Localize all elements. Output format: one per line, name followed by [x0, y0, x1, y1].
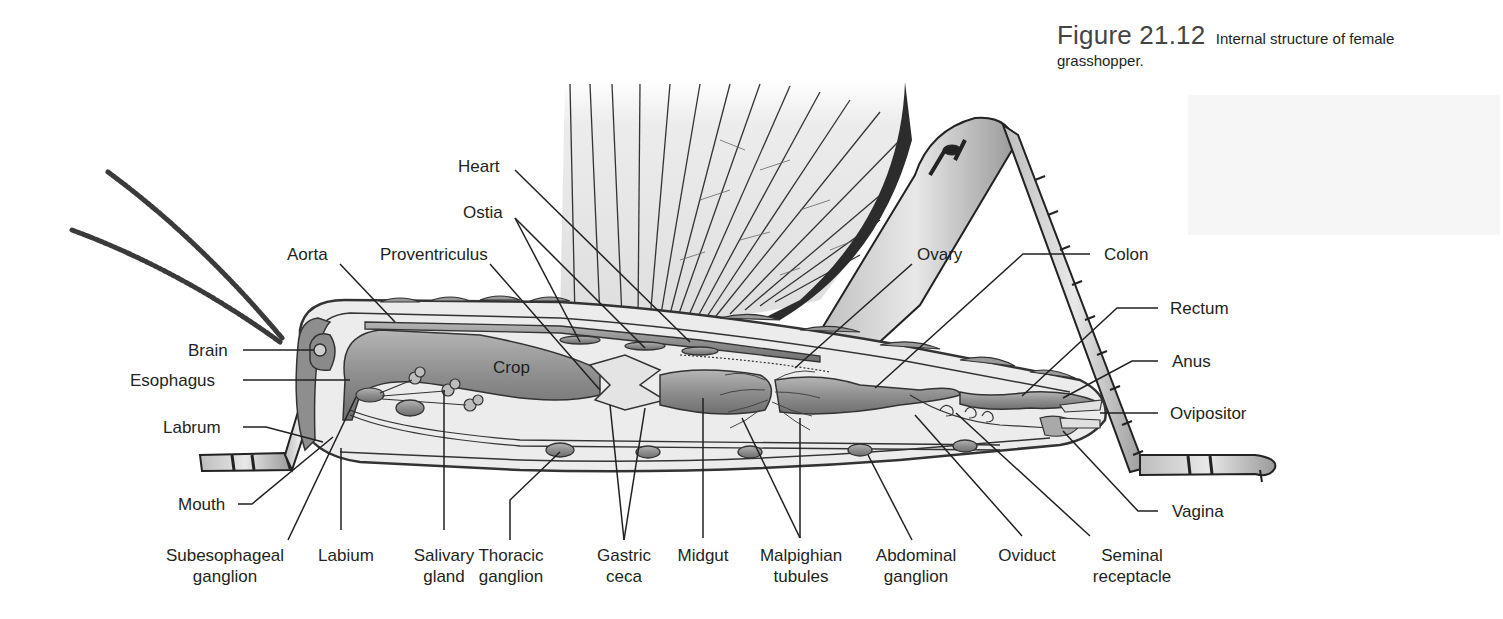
label-crop: Crop [493, 357, 530, 378]
label-subesophageal-ganglion: Subesophageal ganglion [155, 545, 295, 587]
label-line: Oviduct [990, 545, 1064, 566]
label-rectum: Rectum [1170, 298, 1229, 319]
label-line: ganglion [155, 566, 295, 587]
front-leg [200, 405, 312, 471]
label-oviduct: Oviduct [990, 545, 1064, 566]
label-ovary: Ovary [917, 244, 962, 265]
label-malpighian-tubules: Malpighian tubules [745, 545, 857, 587]
label-line: Seminal [1082, 545, 1182, 566]
label-line: Thoracic [466, 545, 556, 566]
label-anus: Anus [1172, 351, 1211, 372]
label-line: ganglion [866, 566, 966, 587]
label-thoracic-ganglion: Thoracic ganglion [466, 545, 556, 587]
label-line: tubules [745, 566, 857, 587]
label-line: Abdominal [866, 545, 966, 566]
caption-text-line2: grasshopper. [1057, 52, 1497, 69]
label-labrum: Labrum [163, 417, 221, 438]
label-line: ceca [588, 566, 660, 587]
brain [310, 334, 335, 371]
figure-canvas: Figure 21.12 Internal structure of femal… [0, 0, 1503, 619]
label-line: ganglion [466, 566, 556, 587]
label-line: Labium [310, 545, 382, 566]
label-line: Gastric [588, 545, 660, 566]
label-gastric-ceca: Gastric ceca [588, 545, 660, 587]
label-ostia: Ostia [463, 202, 503, 223]
label-line: Midgut [670, 545, 736, 566]
figure-caption: Figure 21.12 Internal structure of femal… [1057, 20, 1497, 69]
label-line: Subesophageal [155, 545, 295, 566]
caption-text: Internal structure of female [1216, 30, 1394, 47]
label-line: Malpighian [745, 545, 857, 566]
label-ovipositor: Ovipositor [1170, 403, 1247, 424]
label-seminal-receptacle: Seminal receptacle [1082, 545, 1182, 587]
label-brain: Brain [188, 340, 228, 361]
label-line: receptacle [1082, 566, 1182, 587]
grasshopper-illustration [0, 0, 1503, 619]
label-proventriculus: Proventriculus [380, 244, 488, 265]
antennae [72, 172, 282, 342]
label-abdominal-ganglion: Abdominal ganglion [866, 545, 966, 587]
label-midgut: Midgut [670, 545, 736, 566]
label-esophagus: Esophagus [130, 370, 215, 391]
label-colon: Colon [1104, 244, 1148, 265]
figure-number: Figure 21.12 [1057, 20, 1205, 50]
label-heart: Heart [458, 156, 500, 177]
label-mouth: Mouth [178, 494, 225, 515]
label-vagina: Vagina [1172, 501, 1224, 522]
label-aorta: Aorta [287, 244, 328, 265]
label-labium: Labium [310, 545, 382, 566]
